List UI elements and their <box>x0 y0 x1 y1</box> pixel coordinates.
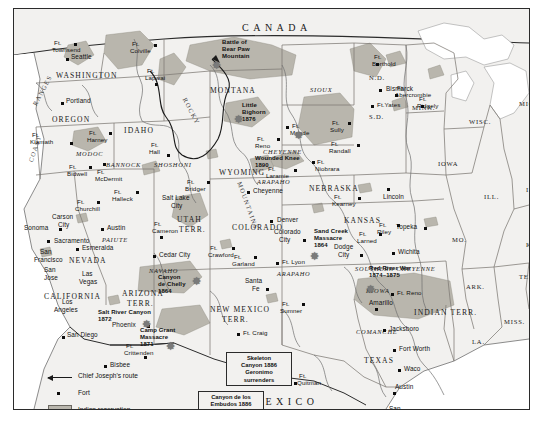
callout-line: Canyon de los <box>202 394 260 401</box>
city-label: Fe <box>252 286 260 293</box>
state-label: IDAHO <box>124 127 154 135</box>
state-label: ILL. <box>484 194 499 201</box>
callout-line: Canyon 1886 <box>230 362 288 369</box>
tribe-label: ARAPAHO <box>277 271 311 278</box>
battle-label: 1871 <box>140 341 154 347</box>
fort-dot <box>302 303 305 306</box>
state-label: NEBRASKA <box>309 185 359 193</box>
city-dot <box>424 227 427 230</box>
battle-label: 1890 <box>255 162 269 168</box>
fort-label: Crittenden <box>124 350 154 357</box>
state-label: NEW MEXICO <box>210 306 270 314</box>
city-label: Francisco <box>34 257 63 264</box>
city-dot <box>393 349 396 352</box>
fort-dot <box>155 83 158 86</box>
state-label: TERR. <box>127 300 154 308</box>
fort-dot <box>371 105 374 108</box>
state-label: OREGON <box>52 116 90 124</box>
map-legend: Chief Joseph's route Fort Indian reserva… <box>34 369 204 410</box>
fort-label: Sumner <box>280 308 302 315</box>
fort-dot <box>109 132 112 135</box>
battle-label: Red River War <box>369 265 411 271</box>
state-label: IND. <box>526 187 530 194</box>
city-label: Portland <box>66 98 91 105</box>
tribe-label: SIOUX <box>310 87 332 94</box>
fort-label: Klamath <box>30 139 53 146</box>
state-label: S.D. <box>369 114 384 121</box>
city-dot <box>270 220 273 223</box>
city-label: Austin <box>107 225 125 232</box>
fort-label: Townsend <box>52 47 81 54</box>
fort-label: Bridger <box>185 186 206 193</box>
city-label: Las <box>82 271 93 278</box>
city-dot <box>66 58 69 61</box>
callout-line: Geronimo <box>230 369 288 376</box>
callout-line: surrenders <box>230 377 288 384</box>
fort-dot <box>379 233 382 236</box>
fort-label: Reno <box>255 143 270 150</box>
city-dot <box>398 369 401 372</box>
fort-label: Colville <box>130 48 151 55</box>
battle-label: Massacre <box>314 235 342 241</box>
tribe-label: ARAPAHO <box>257 179 291 186</box>
battle-label: 1874–1875 <box>369 272 400 278</box>
battle-label: de Chelly <box>158 281 186 287</box>
reservation-swatch-icon <box>48 405 72 410</box>
state-label: INDIAN TERR. <box>414 309 477 317</box>
city-label: Amarillo <box>369 300 393 307</box>
map-frame: CANADAMEXICOWASHINGTONOREGONIDAHOMONTANA… <box>13 8 530 410</box>
tribe-label: PAIUTE <box>102 237 128 244</box>
fort-dot <box>294 382 297 385</box>
fort-label: McDermit <box>95 176 122 183</box>
city-label: Santa <box>245 278 262 285</box>
fort-dot <box>376 63 379 66</box>
battle-label: 1864 <box>158 288 172 294</box>
city-label: Los <box>62 299 73 306</box>
fort-label: Bidwell <box>67 171 87 178</box>
city-label: Colorado <box>274 229 301 236</box>
fort-label: Ft. Craig <box>243 330 268 337</box>
city-label: City <box>171 203 182 210</box>
fort-label: Kearney <box>332 201 356 208</box>
fort-dot <box>312 161 315 164</box>
battle-label: Massacre <box>140 334 168 340</box>
city-label: Lincoln <box>383 194 404 201</box>
fort-label: Randall <box>329 148 351 155</box>
city-label: San <box>40 249 52 256</box>
city-label: San <box>44 267 56 274</box>
fort-dot <box>391 293 394 296</box>
fort-dot <box>167 154 170 157</box>
battle-label: Bear Paw <box>222 46 250 52</box>
fort-dot <box>154 44 157 47</box>
city-label: City <box>279 237 290 244</box>
battle-label: 1864 <box>314 242 328 248</box>
fort-label: Sully <box>330 127 344 134</box>
state-label: WASHINGTON <box>56 72 117 80</box>
city-label: San <box>389 406 401 410</box>
city-label: Bisbee <box>110 362 130 369</box>
fort-label: Ft. Reno <box>397 290 422 297</box>
city-label: Wichita <box>398 249 420 256</box>
fort-dot <box>144 356 147 359</box>
legend-label-fort: Fort <box>78 389 90 396</box>
state-label: MONTANA <box>210 87 256 95</box>
fort-label: Garland <box>232 261 255 268</box>
fort-dot <box>237 333 240 336</box>
city-dot <box>153 255 156 258</box>
battle-label: Canyon <box>158 274 181 280</box>
state-label: IOWA <box>438 161 458 168</box>
fort-dot <box>421 105 424 108</box>
state-label: WYOMING <box>219 169 265 177</box>
city-dot <box>393 392 396 395</box>
battle-callout: Canyon de losEmbudos 1886Geronimoescapes <box>198 391 264 410</box>
city-dot <box>76 248 79 251</box>
state-label: KY. <box>526 242 530 249</box>
fort-dot <box>97 201 100 204</box>
state-label: N.D. <box>369 75 385 82</box>
tribe-label: MODOC <box>76 151 103 158</box>
fort-dot <box>276 262 279 265</box>
battle-label: Sand Creek <box>314 228 348 234</box>
city-dot <box>360 254 363 257</box>
city-label: Waco <box>404 366 421 373</box>
fort-label: Niobrara <box>315 166 340 173</box>
